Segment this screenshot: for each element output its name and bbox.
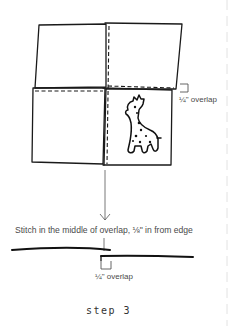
- bracket-icon: [180, 84, 188, 92]
- fabric-layer-top: [12, 248, 110, 250]
- overlap-label-top: ¼" overlap: [179, 95, 217, 104]
- overlap-label-bottom: ¼" overlap: [95, 272, 133, 281]
- step-label: step 3: [86, 305, 131, 316]
- down-arrow-icon: [100, 170, 110, 220]
- panel-top-right: [105, 23, 182, 89]
- stitch-line-vertical: [107, 26, 109, 164]
- stitch-caption: Stitch in the middle of overlap, ⅛" in f…: [15, 225, 193, 235]
- fabric-layer-bottom: [101, 256, 193, 257]
- bracket-icon-bottom: [101, 261, 111, 269]
- giraffe-icon: [126, 95, 161, 153]
- stitch-line-horizontal-right: [108, 86, 174, 88]
- panel-top-left: [35, 24, 106, 88]
- panel-bottom-left: [32, 88, 105, 164]
